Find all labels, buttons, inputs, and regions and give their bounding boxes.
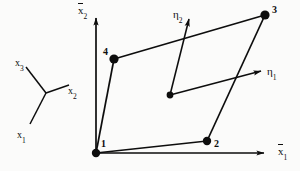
node-label-4: 4 bbox=[103, 47, 108, 57]
axis-label-x2-subscript: 2 bbox=[84, 12, 88, 21]
eta1-symbol: η bbox=[267, 65, 273, 77]
node-markers bbox=[92, 10, 270, 157]
triad-label-x1: x1 bbox=[17, 130, 26, 143]
figure-canvas: x2 x1 x3 x2 x1 η1 η2 1 2 3 4 bbox=[0, 0, 300, 171]
reference-triad bbox=[26, 67, 69, 124]
node-label-3: 3 bbox=[272, 5, 277, 15]
eta2-subscript: 2 bbox=[179, 16, 183, 25]
node-marker-4 bbox=[109, 54, 118, 63]
node-marker-3 bbox=[260, 10, 269, 19]
eta2-symbol: η bbox=[173, 8, 179, 20]
natural-axis-eta1 bbox=[170, 71, 261, 95]
edge-3-4 bbox=[114, 15, 265, 59]
axis-label-x1-subscript: 1 bbox=[284, 153, 288, 162]
node-marker-1 bbox=[92, 149, 100, 157]
figure-vector-layer bbox=[0, 0, 300, 171]
natural-axis-eta2 bbox=[170, 19, 189, 95]
element-edges bbox=[96, 15, 265, 153]
triad-label-x1-subscript: 1 bbox=[22, 136, 26, 145]
triad-label-x3-subscript: 3 bbox=[20, 64, 24, 73]
axis-label-x2-bar: x2 bbox=[78, 5, 87, 19]
node-label-1: 1 bbox=[101, 139, 106, 149]
triad-label-x2: x2 bbox=[68, 86, 77, 99]
triad-label-x2-subscript: 2 bbox=[73, 92, 77, 101]
natural-axis-label-eta1: η1 bbox=[267, 66, 277, 80]
eta1-subscript: 1 bbox=[273, 73, 277, 82]
element-center-marker bbox=[167, 92, 174, 99]
axis-label-x1-bar: x1 bbox=[278, 146, 287, 160]
triad-label-x3: x3 bbox=[15, 58, 24, 71]
edge-1-2 bbox=[96, 141, 207, 153]
node-marker-2 bbox=[203, 137, 211, 145]
node-label-2: 2 bbox=[214, 139, 219, 149]
natural-axis-label-eta2: η2 bbox=[173, 9, 183, 23]
